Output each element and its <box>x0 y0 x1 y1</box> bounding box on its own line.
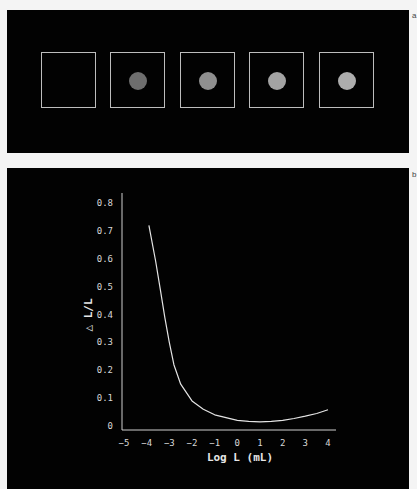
x-tick-label: −1 <box>209 438 220 448</box>
stimulus-box-3 <box>180 52 235 108</box>
y-tick-label: 0.6 <box>97 254 113 264</box>
y-tick-label: 0 <box>108 421 113 431</box>
y-tick-labels: 00.10.20.30.40.50.60.70.8 <box>97 198 113 431</box>
chart-axes <box>122 193 336 430</box>
x-tick-label: 2 <box>280 438 285 448</box>
x-tick-label: 4 <box>325 438 330 448</box>
y-tick-label: 0.2 <box>97 365 113 375</box>
y-tick-label: 0.7 <box>97 226 113 236</box>
panel-label-b: b <box>412 170 416 179</box>
stimulus-box-5 <box>319 52 374 108</box>
weber-curve-chart: 00.10.20.30.40.50.60.70.8 −5−4−3−2−10123… <box>7 168 409 489</box>
stimulus-dot-5 <box>338 72 356 90</box>
stimulus-dot-3 <box>199 72 217 90</box>
x-tick-labels: −5−4−3−2−101234 <box>119 438 331 448</box>
x-tick-label: −4 <box>141 438 152 448</box>
stimulus-box-2 <box>110 52 165 108</box>
stimulus-dot-2 <box>129 72 147 90</box>
x-tick-label: −5 <box>119 438 130 448</box>
y-tick-label: 0.5 <box>97 282 113 292</box>
stimulus-box-4 <box>249 52 304 108</box>
panel-label-a: a <box>412 11 416 20</box>
y-tick-label: 0.8 <box>97 198 113 208</box>
y-tick-label: 0.3 <box>97 337 113 347</box>
x-axis-label: Log L (mL) <box>207 451 273 464</box>
chart-panel: 00.10.20.30.40.50.60.70.8 −5−4−3−2−10123… <box>7 168 409 489</box>
y-axis-label: △ L/L <box>82 298 95 331</box>
y-tick-label: 0.4 <box>97 310 113 320</box>
x-tick-label: −3 <box>164 438 175 448</box>
x-tick-label: 0 <box>235 438 240 448</box>
x-tick-label: −2 <box>187 438 198 448</box>
weber-curve-line <box>149 225 328 421</box>
stimulus-panel <box>7 10 409 153</box>
stimulus-box-1 <box>41 52 96 108</box>
stimulus-dot-4 <box>268 72 286 90</box>
x-tick-label: 1 <box>257 438 262 448</box>
y-tick-label: 0.1 <box>97 393 113 403</box>
x-tick-label: 3 <box>303 438 308 448</box>
